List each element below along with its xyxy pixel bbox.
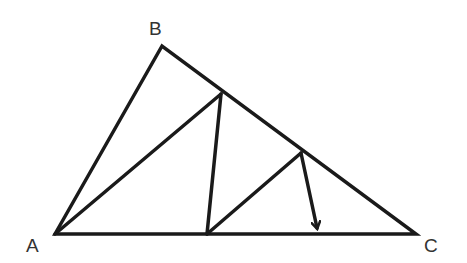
segment-de [207,94,221,234]
arrow-fg [301,153,317,228]
label-a: A [26,236,39,255]
segment-ad [55,94,221,234]
segment-ef [207,153,301,234]
triangle-diagram: B A C [0,0,467,263]
triangle-abc [55,46,416,234]
diagram-lines [0,0,467,263]
label-b: B [149,19,162,38]
label-c: C [424,236,438,255]
